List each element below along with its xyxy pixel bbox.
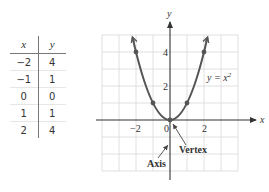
vertex-annotation: Vertex bbox=[179, 144, 207, 155]
y-tick-label: 2 bbox=[163, 81, 168, 92]
x-tick-label: 2 bbox=[202, 123, 207, 134]
x-tick-label: 0 bbox=[164, 123, 169, 134]
axis-annotation: Axis bbox=[147, 158, 166, 169]
x-tick-label: −2 bbox=[130, 123, 141, 134]
vertex-pointer bbox=[173, 124, 186, 145]
x-axis-label: x bbox=[259, 114, 265, 125]
y-tick-label: 4 bbox=[163, 47, 168, 58]
y-axis-label: y bbox=[166, 8, 172, 19]
axis-pointer bbox=[158, 145, 168, 158]
curve-label: y = x2 bbox=[206, 71, 232, 83]
parabola-graph: x y −2 0 2 4 2 y = x2 Vertex Axis bbox=[0, 0, 269, 192]
